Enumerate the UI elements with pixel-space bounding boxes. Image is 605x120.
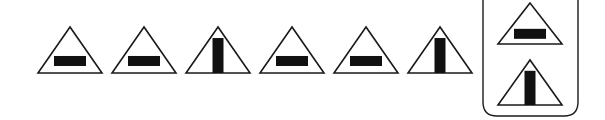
sequence-item-5 bbox=[334, 27, 398, 73]
vertical-bar-shape bbox=[213, 38, 224, 73]
option-item-2 bbox=[498, 60, 562, 105]
sequence-item-1 bbox=[38, 27, 102, 73]
sequence-item-6 bbox=[408, 27, 472, 73]
horizontal-bar-shape bbox=[514, 29, 546, 39]
vertical-bar-shape bbox=[525, 71, 536, 105]
triangle-outline bbox=[260, 27, 324, 73]
vertical-bar-shape bbox=[435, 38, 446, 73]
horizontal-bar-shape bbox=[128, 56, 160, 66]
sequence-item-4 bbox=[260, 27, 324, 73]
option-item-1 bbox=[498, 3, 562, 44]
horizontal-bar-shape bbox=[54, 56, 86, 66]
sequence-item-2 bbox=[112, 27, 176, 73]
sequence-item-3 bbox=[186, 27, 250, 73]
triangle-outline bbox=[38, 27, 102, 73]
horizontal-bar-shape bbox=[276, 56, 308, 66]
triangle-outline bbox=[334, 27, 398, 73]
horizontal-bar-shape bbox=[350, 56, 382, 66]
triangle-outline bbox=[112, 27, 176, 73]
pattern-diagram bbox=[0, 0, 605, 120]
